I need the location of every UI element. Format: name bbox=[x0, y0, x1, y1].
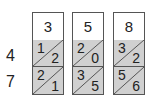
cell-ones-digit: 2 bbox=[51, 51, 59, 65]
lattice-cell-1-0: 2 1 bbox=[33, 67, 63, 94]
lattice-column-0: 3 1 2 2 1 bbox=[32, 12, 64, 95]
cell-tens-digit: 2 bbox=[77, 41, 85, 55]
cell-ones-digit: 6 bbox=[132, 79, 140, 93]
lattice-cell-1-2: 5 6 bbox=[114, 67, 144, 94]
lattice-cell-1-1: 3 5 bbox=[73, 67, 103, 94]
cell-tens-digit: 2 bbox=[37, 68, 45, 82]
cell-ones-digit: 5 bbox=[91, 79, 99, 93]
column-header-1: 5 bbox=[73, 13, 103, 41]
lattice-column-2: 8 3 2 5 6 bbox=[113, 12, 145, 95]
cell-ones-digit: 0 bbox=[91, 51, 99, 65]
column-header-2: 8 bbox=[114, 13, 144, 41]
lattice-cell-0-2: 3 2 bbox=[114, 40, 144, 67]
lattice-column-1: 5 2 0 3 5 bbox=[72, 12, 104, 95]
cell-tens-digit: 3 bbox=[118, 41, 126, 55]
cell-tens-digit: 5 bbox=[118, 68, 126, 82]
cell-tens-digit: 1 bbox=[37, 41, 45, 55]
lattice-cell-0-0: 1 2 bbox=[33, 40, 63, 67]
column-header-0: 3 bbox=[33, 13, 63, 41]
lattice-cell-0-1: 2 0 bbox=[73, 40, 103, 67]
row-label-0: 4 bbox=[6, 48, 15, 64]
cell-tens-digit: 3 bbox=[77, 68, 85, 82]
row-label-1: 7 bbox=[6, 74, 15, 90]
cell-ones-digit: 2 bbox=[132, 51, 140, 65]
cell-ones-digit: 1 bbox=[51, 79, 59, 93]
